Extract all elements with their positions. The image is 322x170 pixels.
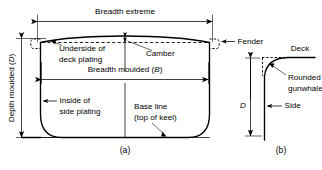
label-depth-moulded: Depth moulded (D) (7, 54, 16, 123)
ship-section-figure: Breadth extreme Depth moulded (D) Fender (0, 0, 322, 170)
fender-bracket-port (31, 39, 41, 49)
label-depth-b: D (240, 101, 246, 110)
label-underside-line2: deck plating (59, 55, 102, 64)
label-breadth-extreme: Breadth extreme (95, 7, 155, 16)
label-baseline-line2: (top of keel) (134, 113, 177, 122)
label-depth-moulded-group: Depth moulded (D) (7, 54, 16, 123)
diagram-canvas: Breadth extreme Depth moulded (D) Fender (0, 0, 322, 170)
label-baseline-line1: Base line (134, 102, 168, 111)
gunwhale-leader-arrow (269, 63, 274, 68)
label-side: Side (285, 101, 302, 110)
label-rounded-line1: Rounded (288, 73, 321, 82)
label-underside-line1: Underside of (59, 44, 106, 53)
label-rounded-line2: gunwhale (288, 84, 322, 93)
label-breadth-moulded: Breadth moulded (B) (88, 65, 163, 74)
fender-bracket-starboard (210, 39, 220, 49)
label-inside-line1: Inside of (60, 96, 91, 105)
gunwhale-outline (265, 58, 316, 141)
extension-lines-depth-b (245, 58, 262, 136)
gunwhale-leader (272, 65, 287, 75)
label-fender: Fender (238, 37, 264, 46)
label-deck: Deck (291, 44, 310, 53)
label-camber: Camber (146, 49, 175, 58)
caption-b: (b) (276, 145, 287, 155)
label-inside-line2: side plating (60, 107, 101, 116)
caption-a: (a) (120, 145, 131, 155)
